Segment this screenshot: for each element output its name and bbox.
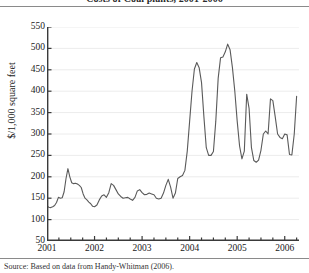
plot-area [47,27,299,241]
y-tick-label: 200 [15,172,45,182]
x-tick-label: 2005 [217,243,257,253]
y-tick-label: 150 [15,193,45,203]
y-tick-label: 300 [15,129,45,139]
x-tick-label: 2002 [75,243,115,253]
figure-title: Costs of Coal plants, 2001-2006 [0,0,309,4]
figure-container: Costs of Coal plants, 2001-2006 $/1,000 … [0,0,309,273]
bottom-rule [0,258,309,259]
y-tick-label: 550 [15,22,45,32]
y-tick-label: 350 [15,108,45,118]
y-axis-label: $/1,000 square feet [6,46,17,156]
x-tick-label: 2004 [170,243,210,253]
x-tick-label: 2003 [122,243,162,253]
y-tick-label: 450 [15,65,45,75]
chart-canvas [47,27,299,241]
gridlines [47,27,299,241]
y-tick-label: 100 [15,215,45,225]
x-tick-label: 2006 [265,243,305,253]
figure-caption: Source: Based on data from Handy-Whitman… [4,262,304,271]
y-tick-label: 250 [15,150,45,160]
x-tick-label: 2001 [27,243,67,253]
y-tick-label: 500 [15,43,45,53]
y-tick-label: 400 [15,86,45,96]
top-rule [0,6,309,7]
data-series-line [47,44,297,208]
